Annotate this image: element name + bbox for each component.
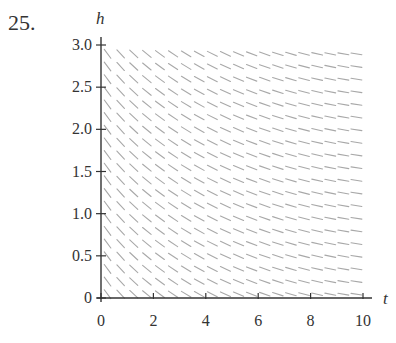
slope-segment (286, 179, 297, 182)
axes (97, 37, 372, 302)
slope-segment (220, 153, 230, 158)
slope-segment (286, 128, 297, 131)
slope-segment (351, 230, 362, 232)
slope-segment (130, 50, 138, 57)
tick-labels: 024681000.51.01.52.02.53.0 (72, 36, 371, 329)
slope-segment (351, 192, 362, 194)
slope-segment (312, 103, 323, 105)
slope-segment (130, 278, 138, 285)
slope-segment (194, 241, 204, 246)
slope-segment (260, 103, 270, 107)
slope-segment (130, 290, 138, 297)
y-tick-label: 1.0 (72, 205, 92, 222)
slope-segment (233, 216, 243, 220)
slope-segment (168, 190, 177, 196)
slope-segment (143, 152, 151, 159)
slope-segment (325, 167, 336, 169)
slope-segment (220, 292, 230, 297)
slope-segment (130, 101, 138, 108)
slope-segment (286, 293, 297, 296)
slope-segment (233, 204, 243, 208)
slope-segment (130, 189, 138, 196)
slope-segment (207, 127, 217, 132)
slope-segment (181, 51, 190, 57)
slope-segment (273, 204, 283, 207)
slope-segment (104, 227, 111, 236)
slope-segment (338, 293, 349, 295)
slope-segment (299, 52, 310, 55)
slope-segment (143, 291, 151, 298)
slope-segment (351, 104, 362, 106)
slope-segment (286, 242, 297, 245)
slope-segment (156, 228, 165, 235)
slope-segment (207, 115, 217, 120)
slope-segment (312, 230, 323, 232)
slope-segment (220, 254, 230, 259)
slope-segment (117, 290, 124, 298)
slope-segment (181, 215, 190, 221)
slope-segment (156, 266, 165, 273)
slope-segment (233, 279, 243, 283)
slope-segment (117, 151, 124, 159)
slope-segment (299, 217, 310, 220)
slope-segment (117, 88, 124, 96)
slope-segment (220, 178, 230, 183)
slope-segment (130, 75, 138, 82)
slope-segment (194, 292, 204, 297)
slope-segment (273, 267, 283, 270)
slope-segment (351, 243, 362, 245)
slope-segment (181, 279, 190, 285)
slope-segment (273, 77, 283, 80)
slope-segment (286, 65, 297, 68)
slope-segment (207, 153, 217, 158)
slope-segment (156, 240, 165, 247)
slope-segment (338, 243, 349, 245)
slope-segment (207, 292, 217, 297)
slope-segment (156, 114, 165, 121)
slope-segment (351, 91, 362, 93)
slope-segment (286, 90, 297, 93)
slope-segment (117, 75, 124, 83)
slope-segment (194, 51, 204, 56)
slope-segment (260, 191, 270, 195)
slope-segment (286, 78, 297, 81)
slope-segment (220, 77, 230, 82)
slope-segment (247, 280, 257, 284)
slope-segment (104, 49, 111, 58)
slope-segment (247, 242, 257, 246)
slope-segment (104, 75, 111, 84)
slope-segment (207, 191, 217, 196)
slope-segment (194, 254, 204, 259)
slope-segment (325, 255, 336, 257)
slope-segment (168, 63, 177, 69)
slope-segment (325, 116, 336, 118)
slope-segment (325, 293, 336, 295)
slope-segment (233, 153, 243, 157)
slope-segment (130, 139, 138, 146)
slope-segment (168, 127, 177, 133)
slope-segment (260, 90, 270, 94)
slope-segment (156, 139, 165, 146)
slope-segment (156, 63, 165, 70)
slope-segment (351, 129, 362, 131)
slope-segment (104, 113, 111, 122)
slope-segment (247, 77, 257, 81)
slope-segment (220, 203, 230, 208)
slope-segment (351, 205, 362, 207)
y-tick-label: 0.5 (72, 247, 92, 264)
slope-segment (260, 166, 270, 170)
slope-segment (351, 167, 362, 169)
slope-segment (220, 64, 230, 69)
slope-segment (104, 290, 111, 299)
slope-segment (181, 190, 190, 196)
slope-segment (130, 265, 138, 272)
slope-segment (233, 52, 243, 56)
slope-segment (273, 115, 283, 118)
slope-segment (143, 177, 151, 184)
slope-segment (260, 52, 270, 56)
slope-segment (194, 64, 204, 69)
slope-segment (207, 254, 217, 259)
slope-segment (338, 116, 349, 118)
slope-segment (312, 192, 323, 194)
slope-segment (286, 191, 297, 194)
